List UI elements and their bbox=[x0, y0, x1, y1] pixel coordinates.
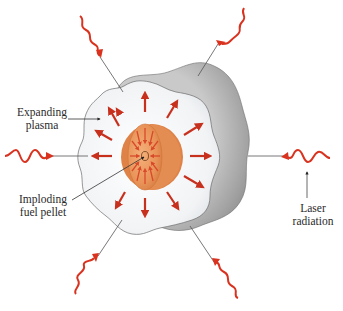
label-imploding-fuel-pellet: Imploding fuel pellet bbox=[12, 193, 74, 219]
label-imploding-pellet-line1: Imploding bbox=[12, 193, 74, 206]
imploding-fuel-pellet bbox=[121, 124, 183, 190]
laser-beam-right bbox=[248, 150, 330, 198]
label-laser-radiation-line1: Laser bbox=[290, 202, 336, 215]
label-expanding-plasma-line2: plasma bbox=[14, 119, 70, 132]
label-expanding-plasma: Expanding plasma bbox=[14, 106, 70, 132]
label-laser-radiation: Laser radiation bbox=[290, 202, 336, 228]
fusion-diagram bbox=[0, 0, 343, 311]
laser-beam-top-left bbox=[80, 16, 123, 92]
label-imploding-pellet-line2: fuel pellet bbox=[12, 206, 74, 219]
laser-beam-bottom-right bbox=[190, 226, 238, 298]
label-laser-radiation-line2: radiation bbox=[290, 215, 336, 228]
laser-beam-left bbox=[5, 150, 88, 162]
laser-beam-bottom-left bbox=[75, 220, 122, 294]
label-expanding-plasma-line1: Expanding bbox=[14, 106, 70, 119]
